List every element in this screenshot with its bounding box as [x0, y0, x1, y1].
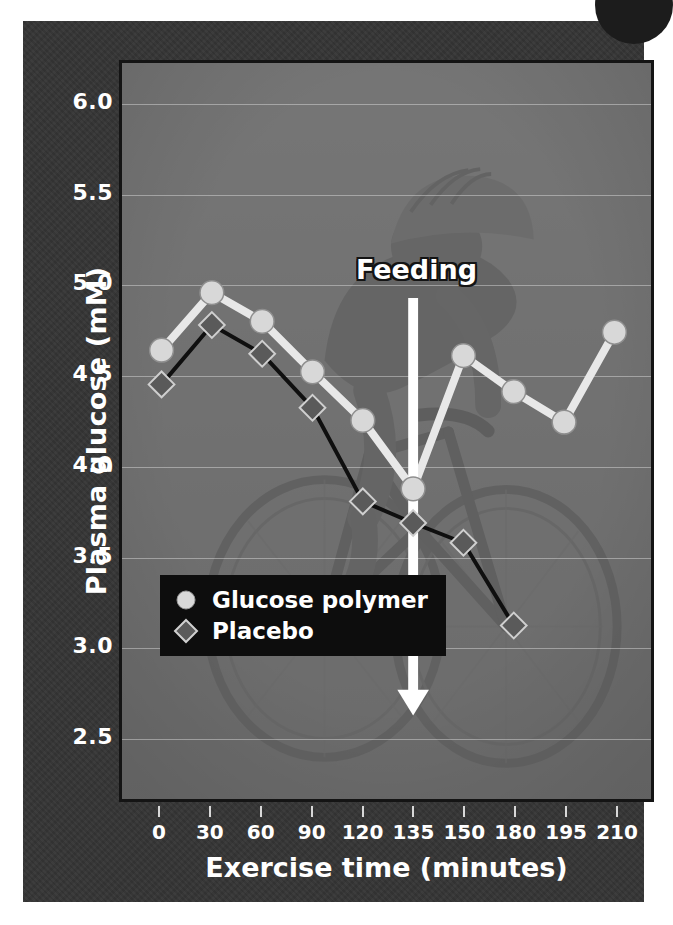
- plot-area: Glucose polymerPlacebo Feeding: [119, 60, 654, 802]
- data-point-circle: [200, 281, 224, 305]
- legend-item-label: Placebo: [212, 618, 314, 644]
- x-axis-tick-label: 30: [196, 820, 224, 844]
- y-axis-tick-labels: 6.05.55.04.54.03.53.02.5: [41, 60, 113, 802]
- data-point-circle: [301, 360, 325, 384]
- x-axis-tick-mark: [209, 806, 211, 817]
- x-axis-tick-mark: [463, 806, 465, 817]
- x-axis-tick-label: 60: [247, 820, 275, 844]
- x-axis-tick-label: 90: [298, 820, 326, 844]
- x-axis-tick-mark: [362, 806, 364, 817]
- y-axis-tick-label: 2.5: [45, 724, 113, 749]
- data-point-circle: [401, 477, 425, 501]
- y-axis-tick-label: 6.0: [45, 89, 113, 114]
- chart-legend: Glucose polymerPlacebo: [160, 575, 446, 656]
- data-point-circle: [502, 380, 526, 404]
- data-point-diamond: [451, 530, 477, 556]
- y-axis-tick-label: 3.0: [45, 633, 113, 658]
- legend-item-label: Glucose polymer: [212, 587, 428, 613]
- data-series-layer: [122, 63, 651, 799]
- x-axis-tick-label: 120: [342, 820, 384, 844]
- x-axis-tick-label: 0: [152, 820, 166, 844]
- diamond-marker-icon: [173, 618, 199, 644]
- y-axis-tick-label: 4.0: [45, 451, 113, 476]
- x-axis-tick-label: 180: [494, 820, 536, 844]
- data-point-diamond: [501, 613, 527, 639]
- x-axis-tick-mark: [311, 806, 313, 817]
- x-axis-tick-label: 210: [596, 820, 638, 844]
- x-axis-title: Exercise time (minutes): [119, 852, 654, 883]
- data-point-diamond: [400, 510, 426, 536]
- data-point-circle: [150, 338, 174, 362]
- legend-item: Placebo: [173, 615, 428, 646]
- data-point-circle: [552, 410, 576, 434]
- data-point-circle: [452, 344, 476, 368]
- x-axis-tick-mark: [158, 806, 160, 817]
- x-axis-tick-labels: 0306090120135150180195210: [119, 806, 654, 846]
- legend-item: Glucose polymer: [173, 584, 428, 615]
- x-axis-tick-mark: [514, 806, 516, 817]
- y-axis-tick-label: 5.5: [45, 179, 113, 204]
- feeding-annotation-label: Feeding: [356, 254, 477, 285]
- plot-area-wrapper: Glucose polymerPlacebo Feeding: [119, 60, 654, 802]
- feeding-arrow-head: [397, 690, 429, 716]
- y-axis-tick-label: 4.5: [45, 361, 113, 386]
- x-axis-tick-mark: [260, 806, 262, 817]
- data-point-circle: [250, 310, 274, 334]
- x-axis-tick-mark: [412, 806, 414, 817]
- x-axis-tick-label: 150: [443, 820, 485, 844]
- data-point-circle: [351, 408, 375, 432]
- circle-marker-icon: [173, 587, 199, 613]
- x-axis-tick-mark: [616, 806, 618, 817]
- data-point-diamond: [350, 488, 376, 514]
- x-axis-tick-label: 195: [545, 820, 587, 844]
- y-axis-tick-label: 5.0: [45, 270, 113, 295]
- data-point-circle: [603, 320, 627, 344]
- x-axis-tick-mark: [565, 806, 567, 817]
- x-axis-tick-label: 135: [393, 820, 435, 844]
- series-line-1: [162, 293, 615, 489]
- y-axis-tick-label: 3.5: [45, 542, 113, 567]
